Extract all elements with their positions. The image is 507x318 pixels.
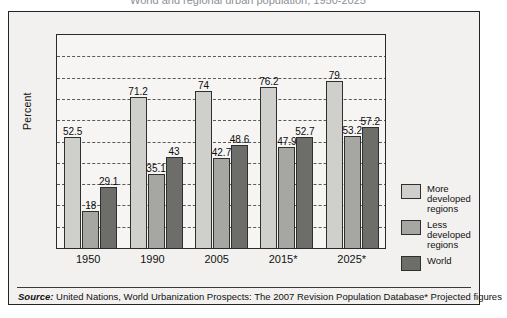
x-tick-label: 1990 — [140, 250, 164, 265]
legend-item-world: World — [401, 256, 479, 271]
bar-groups: 52.51829.171.235.1437442.748.676.247.952… — [58, 36, 385, 249]
source-text: United Nations, World Urbanization Prosp… — [53, 291, 424, 302]
bar-value-label: 48.6 — [230, 134, 249, 145]
bar: 18 — [82, 211, 99, 249]
legend-label: World — [427, 256, 452, 266]
bar: 76.2 — [260, 87, 277, 249]
bar-group: 52.51829.1 — [64, 36, 117, 249]
bar: 29.1 — [100, 187, 117, 249]
legend-swatch-icon — [401, 256, 421, 271]
legend-item-more-developed-regions: More developed regions — [401, 184, 479, 214]
source-label: Source: — [18, 291, 53, 302]
chart-legend: More developed regions Less developed re… — [401, 184, 479, 277]
bar-group: 76.247.952.7 — [260, 36, 313, 249]
x-tick-label: 1950 — [76, 250, 100, 265]
bar-value-label: 53.2 — [343, 125, 362, 136]
bar-group: 71.235.143 — [130, 36, 183, 249]
bar: 35.1 — [148, 174, 165, 249]
bar: 74 — [195, 91, 212, 249]
y-axis-title: Percent — [21, 92, 33, 130]
bar-value-label: 29.1 — [99, 176, 118, 187]
bar: 47.9 — [278, 147, 295, 249]
bar-group: 7442.748.6 — [195, 36, 248, 249]
bar-value-label: 76.2 — [259, 76, 278, 87]
bar: 52.5 — [64, 137, 81, 249]
bar: 42.7 — [213, 158, 230, 249]
legend-swatch-icon — [401, 184, 421, 199]
plot-wrapper: 1009080706050403020100 52.51829.171.235.… — [56, 34, 386, 259]
bar: 57.2 — [362, 127, 379, 249]
bar-value-label: 74 — [198, 80, 209, 91]
bar-value-label: 79 — [329, 70, 340, 81]
bar: 79 — [326, 81, 343, 249]
figure-frame: Percent 1009080706050403020100 52.51829.… — [8, 11, 480, 305]
footer-divider — [17, 287, 471, 288]
bar: 71.2 — [130, 97, 147, 249]
bar: 52.7 — [296, 137, 313, 249]
legend-item-less-developed-regions: Less developed regions — [401, 220, 479, 250]
x-tick-label: 2025* — [337, 250, 366, 265]
projected-figures-note: * Projected figures — [424, 291, 507, 302]
legend-label: More developed regions — [427, 184, 479, 214]
chart-title-cropped: World and regional urban population, 195… — [0, 0, 496, 7]
bar-value-label: 47.9 — [277, 136, 296, 147]
bar-value-label: 52.5 — [63, 126, 82, 137]
x-axis-labels: 1950199020052015*2025* — [56, 250, 386, 266]
bar-value-label: 71.2 — [128, 86, 147, 97]
bar-value-label: 42.7 — [212, 147, 231, 158]
legend-swatch-icon — [401, 220, 421, 235]
source-note: Source: United Nations, World Urbanizati… — [18, 291, 424, 302]
bar: 48.6 — [231, 145, 248, 249]
plot-area: 1009080706050403020100 52.51829.171.235.… — [56, 34, 386, 249]
bar: 43 — [166, 157, 183, 249]
bar-group: 7953.257.2 — [326, 36, 379, 249]
bar: 53.2 — [344, 136, 361, 249]
bar-value-label: 35.1 — [146, 163, 165, 174]
bar-value-label: 57.2 — [361, 116, 380, 127]
x-tick-label: 2015* — [269, 250, 298, 265]
figure-footer: Source: United Nations, World Urbanizati… — [18, 291, 473, 302]
x-tick-label: 2005 — [204, 250, 228, 265]
bar-value-label: 52.7 — [295, 126, 314, 137]
bar-value-label: 43 — [169, 146, 180, 157]
legend-label: Less developed regions — [427, 220, 479, 250]
bar-value-label: 18 — [85, 200, 96, 211]
